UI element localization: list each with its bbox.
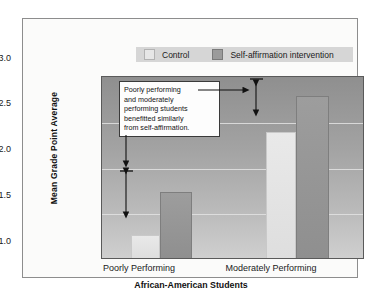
annotation-line-2: and moderately <box>124 95 215 105</box>
y-tick-1-0: 1.0 <box>0 236 11 246</box>
legend-label-intervention: Self-affirmation intervention <box>230 50 333 60</box>
annotation-line-4: benefitted similarly <box>124 114 215 124</box>
bar-poorly-intervention <box>160 192 192 258</box>
bar-moderately-control <box>266 132 296 258</box>
legend-label-control: Control <box>162 50 189 60</box>
y-tick-1-5: 1.5 <box>0 190 11 200</box>
x-tick-moderately-performing: Moderately Performing <box>201 263 341 273</box>
y-axis-label: Mean Grade Point Average <box>49 73 59 223</box>
chart-legend: Control Self-affirmation intervention <box>136 47 353 62</box>
annotation-callout: Poorly performing and moderately perform… <box>119 81 220 137</box>
legend-swatch-control <box>144 49 155 60</box>
y-tick-2-5: 2.5 <box>0 98 11 108</box>
legend-swatch-intervention <box>212 49 223 60</box>
annotation-line-1: Poorly performing <box>124 85 215 95</box>
y-tick-2-0: 2.0 <box>0 144 11 154</box>
annotation-line-3: performing students <box>124 104 215 114</box>
bar-moderately-intervention <box>296 96 329 258</box>
annotation-line-5: from self-affirmation. <box>124 123 215 133</box>
y-tick-3-0: 3.0 <box>0 53 11 63</box>
x-axis-label: African-American Students <box>23 280 359 290</box>
chart-frame: Control Self-affirmation intervention 3.… <box>22 18 358 278</box>
x-tick-poorly-performing: Poorly Performing <box>79 263 199 273</box>
bar-poorly-control <box>131 235 160 258</box>
